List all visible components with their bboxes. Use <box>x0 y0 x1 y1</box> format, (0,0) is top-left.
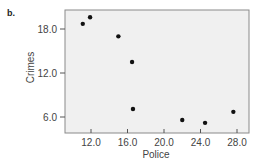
x-tick-label: 12.0 <box>81 137 101 148</box>
y-tick-label: 18.0 <box>38 24 58 35</box>
x-tick-label: 20.0 <box>154 137 174 148</box>
data-point <box>203 121 207 125</box>
x-tick-label: 28.0 <box>227 137 247 148</box>
y-axis-title: Crimes <box>25 52 36 84</box>
x-tick-label: 24.0 <box>191 137 211 148</box>
data-point <box>180 118 184 122</box>
data-point <box>131 107 135 111</box>
y-tick-label: 12.0 <box>38 68 58 79</box>
data-point <box>88 15 92 19</box>
data-point <box>81 22 85 26</box>
data-point <box>116 34 120 38</box>
x-tick-label: 16.0 <box>118 137 138 148</box>
data-point <box>231 110 235 114</box>
y-tick-label: 6.0 <box>43 112 57 123</box>
plot-area <box>65 10 249 133</box>
x-axis-title: Police <box>142 149 170 160</box>
data-point <box>130 60 134 64</box>
scatter-chart: 12.016.020.024.028.0 6.012.018.0 Police … <box>0 0 256 166</box>
y-axis: 6.012.018.0 <box>38 24 65 123</box>
